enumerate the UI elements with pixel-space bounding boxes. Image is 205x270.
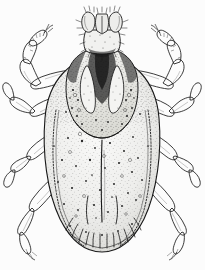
tick-illustration-figure <box>0 0 205 270</box>
tick-drawing-svg <box>0 0 205 270</box>
paper-grain-overlay <box>0 0 205 270</box>
